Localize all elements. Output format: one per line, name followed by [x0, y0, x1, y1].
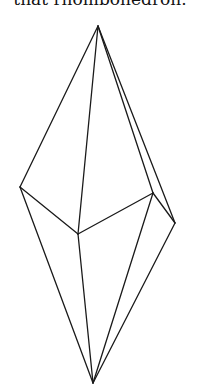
edge: [93, 223, 175, 383]
middle-edges: [20, 187, 175, 234]
lower-edges: [20, 187, 175, 383]
edge: [20, 26, 98, 187]
upper-edges: [20, 26, 175, 234]
edge: [78, 26, 98, 234]
edge: [98, 26, 153, 193]
edge: [153, 193, 175, 223]
rhombohedron-figure: [0, 0, 200, 392]
edge: [98, 26, 175, 223]
edge: [78, 234, 93, 383]
